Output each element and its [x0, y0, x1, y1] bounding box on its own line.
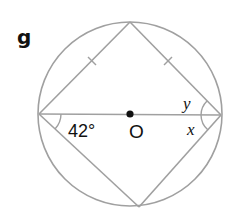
angle-label-y: y	[181, 94, 191, 113]
part-label: g	[17, 25, 31, 49]
center-label: O	[129, 121, 144, 142]
side-left-top	[39, 22, 130, 114]
side-top-right	[130, 22, 221, 115]
circle-theorem-diagram: g 42° O y x	[0, 0, 235, 218]
angle-label-42: 42°	[68, 121, 95, 141]
angle-label-x: x	[186, 120, 195, 139]
angle-arc-y	[201, 101, 207, 115]
center-point	[126, 110, 133, 117]
angle-arc-x	[201, 115, 208, 130]
angle-arc-42	[55, 114, 61, 129]
